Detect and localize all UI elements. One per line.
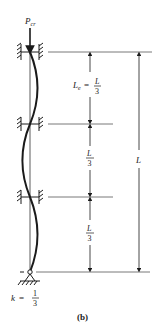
svg-text:3: 3 (88, 159, 92, 168)
svg-text:L: L (86, 224, 92, 233)
segment-3-label: L 3 (86, 224, 94, 243)
svg-text:L: L (86, 149, 92, 158)
svg-text:Le: Le (72, 80, 81, 91)
svg-text:k: k (11, 293, 16, 303)
svg-text:=: = (84, 80, 89, 90)
segment-2-label: L 3 (86, 149, 94, 168)
load-label: Pcr (24, 16, 36, 27)
svg-text:3: 3 (33, 299, 37, 308)
figure-caption: (b) (77, 312, 88, 322)
svg-text:=: = (19, 293, 24, 303)
k-label: k = 1 3 (11, 289, 39, 308)
buckling-diagram: Pcr (0, 0, 155, 328)
reference-lines (36, 52, 152, 272)
total-length-label: L (135, 155, 141, 165)
svg-text:L: L (94, 77, 100, 86)
svg-text:3: 3 (95, 87, 99, 96)
svg-text:1: 1 (33, 289, 37, 298)
effective-length-label: Le = L 3 (72, 77, 101, 96)
svg-text:3: 3 (88, 234, 92, 243)
